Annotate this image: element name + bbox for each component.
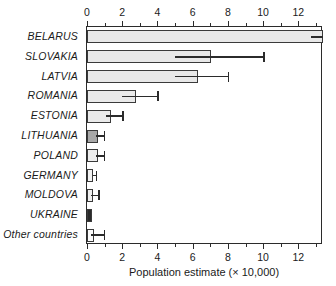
bar xyxy=(87,30,323,43)
axis-tick-minor xyxy=(316,23,317,27)
axis-tick-minor xyxy=(175,23,176,27)
error-bar-cap xyxy=(263,52,265,62)
category-label: POLAND xyxy=(34,149,78,161)
axis-tick-label: 4 xyxy=(154,251,160,263)
category-label: Other countries xyxy=(3,228,78,240)
error-bar-cap xyxy=(157,91,159,101)
axis-tick-major xyxy=(298,243,299,249)
axis-tick-label: 6 xyxy=(190,251,196,263)
error-bar-line xyxy=(122,96,157,98)
error-bar-line xyxy=(91,234,103,236)
axis-tick-minor xyxy=(210,23,211,27)
axis-tick-minor xyxy=(246,243,247,247)
axis-tick-label: 8 xyxy=(225,6,231,18)
category-label: ESTONIA xyxy=(31,109,78,121)
error-bar-line xyxy=(96,155,104,157)
category-label: GERMANY xyxy=(24,169,79,181)
axis-tick-label: 0 xyxy=(84,251,90,263)
axis-tick-label: 12 xyxy=(292,251,304,263)
axis-tick-minor xyxy=(175,243,176,247)
error-bar-cap xyxy=(104,151,106,161)
axis-tick-major xyxy=(263,243,264,249)
axis-tick-label: 10 xyxy=(257,251,269,263)
error-bar-line xyxy=(96,135,104,137)
error-bar-cap xyxy=(122,111,124,121)
axis-tick-label: 6 xyxy=(190,6,196,18)
category-label: UKRAINE xyxy=(30,208,78,220)
axis-tick-label: 4 xyxy=(154,6,160,18)
axis-tick-label: 10 xyxy=(257,6,269,18)
error-bar-cap xyxy=(98,190,100,200)
error-bar-line xyxy=(175,76,228,78)
bar-chart-figure: BELARUSSLOVAKIALATVIAROMANIAESTONIALITHU… xyxy=(0,0,336,286)
category-label: ROMANIA xyxy=(28,89,78,101)
error-bar-cap xyxy=(228,72,230,82)
category-label: LATVIA xyxy=(41,70,78,82)
axis-tick-minor xyxy=(140,23,141,27)
category-label: BELARUS xyxy=(28,30,78,42)
axis-tick-minor xyxy=(281,23,282,27)
category-label: MOLDOVA xyxy=(25,188,78,200)
axis-tick-major xyxy=(157,243,158,249)
axis-tick-minor xyxy=(281,243,282,247)
axis-tick-major xyxy=(157,21,158,27)
error-bar-cap xyxy=(104,230,106,240)
axis-tick-minor xyxy=(105,243,106,247)
axis-tick-major xyxy=(263,21,264,27)
axis-tick-major xyxy=(298,21,299,27)
error-bar-line xyxy=(311,36,323,38)
axis-tick-minor xyxy=(210,243,211,247)
axis-tick-major xyxy=(228,243,229,249)
category-label: SLOVAKIA xyxy=(25,50,78,62)
axis-tick-minor xyxy=(105,23,106,27)
error-bar-line xyxy=(106,115,122,117)
axis-tick-minor xyxy=(246,23,247,27)
bar xyxy=(87,209,92,222)
axis-tick-major xyxy=(87,243,88,249)
axis-tick-label: 2 xyxy=(119,251,125,263)
error-bar-line xyxy=(175,56,263,58)
axis-tick-major xyxy=(122,243,123,249)
axis-tick-minor xyxy=(140,243,141,247)
category-label: LITHUANIA xyxy=(21,129,78,141)
category-axis-labels: BELARUSSLOVAKIALATVIAROMANIAESTONIALITHU… xyxy=(0,26,82,244)
axis-tick-label: 2 xyxy=(119,6,125,18)
error-bar-cap xyxy=(104,131,106,141)
axis-tick-major xyxy=(87,21,88,27)
axis-tick-major xyxy=(228,21,229,27)
axis-tick-label: 8 xyxy=(225,251,231,263)
axis-tick-minor xyxy=(316,243,317,247)
axis-tick-major xyxy=(193,243,194,249)
axis-tick-label: 0 xyxy=(84,6,90,18)
axis-tick-label: 12 xyxy=(292,6,304,18)
error-bar-cap xyxy=(96,171,98,181)
plot-area: 024681012 024681012 xyxy=(86,26,322,244)
axis-tick-major xyxy=(122,21,123,27)
x-axis-title: Population estimate (× 10,000) xyxy=(86,266,322,278)
axis-tick-major xyxy=(193,21,194,27)
